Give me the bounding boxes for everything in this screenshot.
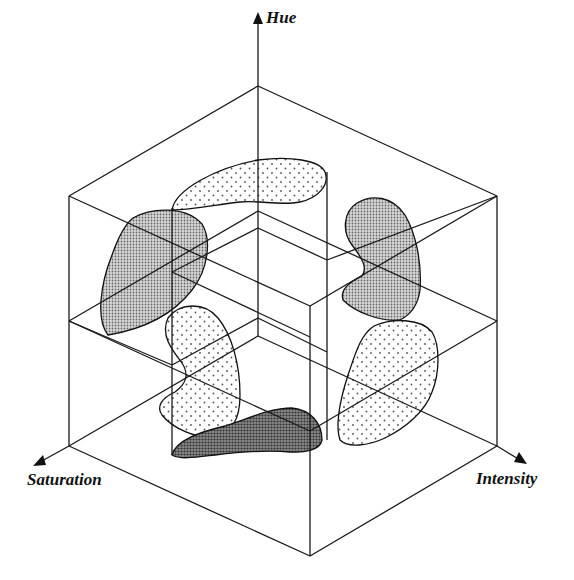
hsi-cube-diagram	[0, 0, 574, 580]
intensity-axis-label: Intensity	[476, 469, 537, 489]
right-lower-region	[338, 321, 438, 445]
hue-arrow-icon	[253, 12, 263, 24]
saturation-axis-label: Saturation	[27, 470, 102, 490]
saturation-arrow-icon	[33, 455, 46, 466]
hue-axis-label: Hue	[266, 8, 296, 28]
right-upper-region	[342, 198, 420, 320]
top-region	[172, 159, 326, 211]
